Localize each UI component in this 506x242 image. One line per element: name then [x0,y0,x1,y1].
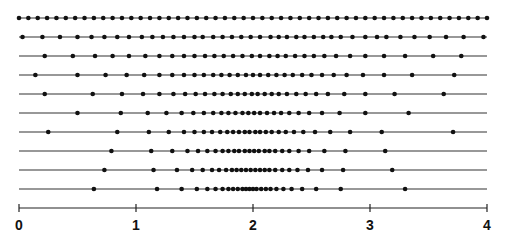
point-dot [212,54,217,59]
point-dot [419,16,424,21]
point-dot [269,16,274,21]
point-dot [258,168,263,173]
point-dot [64,16,69,21]
point-dot [410,73,415,78]
point-dot [382,54,387,59]
point-dot [247,130,252,135]
point-dot [260,16,265,21]
point-dot [200,35,205,40]
point-dot [150,35,155,40]
point-dot [183,92,188,97]
point-dot [231,130,236,135]
point-dot [243,92,248,97]
point-dot [266,73,271,78]
point-dot [363,92,368,97]
point-dot [283,54,288,59]
point-dot [192,130,197,135]
point-dot [145,111,150,116]
point-dot [205,149,210,154]
point-dot [258,35,263,40]
row-5 [19,92,487,97]
point-dot [267,149,272,154]
point-dot [240,54,245,59]
point-dot [326,92,331,97]
point-dot [157,16,162,21]
point-dot [191,111,196,116]
point-dot [218,130,223,135]
row-8 [19,149,487,154]
point-dot [148,16,153,21]
point-dot [326,16,331,21]
point-dot [269,130,274,135]
point-dot [322,54,327,59]
point-dot [363,54,368,59]
point-dot [90,92,95,97]
point-dot [288,16,293,21]
point-dot [459,54,464,59]
point-dot [312,35,317,40]
point-dot [166,16,171,21]
point-dot [441,92,446,97]
point-dot [120,92,125,97]
point-dot [192,54,197,59]
point-dot [255,92,260,97]
point-dot [382,73,387,78]
point-dot [251,73,256,78]
point-dot [300,187,305,192]
point-dot [354,16,359,21]
point-dot [289,187,294,192]
point-dot [171,35,176,40]
point-dot [281,187,286,192]
point-dot [196,149,201,154]
point-dot [202,111,207,116]
point-dot [276,35,281,40]
point-dot [223,16,228,21]
point-dot [258,54,263,59]
point-dot [290,73,295,78]
point-dot [210,168,215,173]
point-dot [348,130,353,135]
point-dot [427,35,432,40]
point-dot [475,16,480,21]
point-dot [75,73,80,78]
point-dot [92,16,97,21]
point-dot [234,168,239,173]
point-dot [231,187,236,192]
point-dot [344,73,349,78]
point-dot [298,16,303,21]
row-7 [19,130,487,135]
point-dot [42,92,47,97]
point-dot [127,35,132,40]
point-dot [294,92,299,97]
point-dot [138,16,143,21]
point-dot [287,149,292,154]
point-dot [220,149,225,154]
point-dot [301,130,306,135]
point-dot [182,73,187,78]
point-dot [254,187,259,192]
point-dot [276,130,281,135]
point-dot [217,168,222,173]
point-dot [287,111,292,116]
point-dot [157,73,162,78]
point-dot [280,168,285,173]
point-dot [110,16,115,21]
x-axis-tick-label: 2 [249,217,257,233]
point-dot [447,16,452,21]
point-dot [110,54,115,59]
point-dot [115,35,120,40]
point-dot [312,54,317,59]
point-dot [203,92,208,97]
point-dot [272,111,277,116]
point-dot [185,16,190,21]
point-dot [102,168,107,173]
point-dot [235,73,240,78]
point-dot [391,16,396,21]
point-dot [375,35,380,40]
point-dot [182,130,187,135]
point-dot [171,92,176,97]
point-dot [149,149,154,154]
x-axis-tick-label: 4 [483,217,491,233]
point-dot [202,73,207,78]
point-dot [321,35,326,40]
